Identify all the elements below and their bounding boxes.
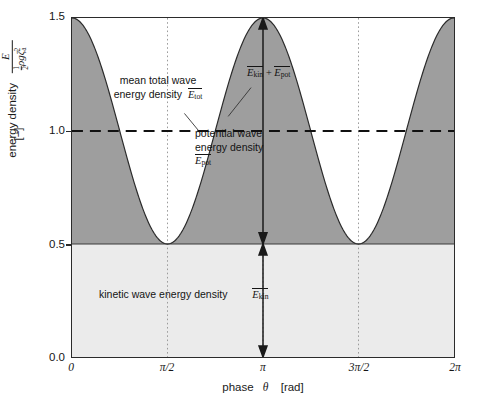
mean-total-symbol: Etot — [188, 88, 202, 101]
mean-total-line2: energy density — [114, 88, 182, 100]
y-axis-label: energy density E 1 2 ρgζa2 — [0, 4, 28, 194]
y-axis-label-text: energy density — [6, 83, 18, 158]
y-formula-exponent: 2 — [12, 48, 21, 52]
y-axis-unit: [−] — [12, 124, 36, 144]
y-formula-numerator: E — [0, 41, 11, 73]
potential-line2: energy density — [195, 141, 263, 153]
annotation-potential: potential wave energy density Epot — [195, 127, 263, 168]
annotation-kinetic: kinetic wave energy density Ekin — [99, 288, 268, 302]
ytick-mark-1.0 — [66, 131, 71, 132]
kinetic-symbol: Ekin — [252, 288, 268, 301]
x-axis-label-symbol: θ — [263, 381, 269, 393]
wave-energy-density-figure: mean total wave energy density Etot Ekin… — [0, 0, 481, 404]
total-plus-sign: + — [265, 67, 272, 78]
y-formula-rho-g-zeta: ρgζ — [13, 51, 25, 66]
y-axis-formula: E 1 2 ρgζa2 — [0, 41, 29, 73]
ytick-label-1.5: 1.5 — [31, 11, 65, 23]
total-symbol-kin: Ekin — [247, 66, 263, 79]
annotation-mean-total: mean total wave energy density Etot — [94, 74, 222, 101]
xtick-label-0: 0 — [41, 362, 101, 374]
x-axis-label: phase θ [rad] — [71, 381, 455, 393]
plot-area: mean total wave energy density Etot Ekin… — [71, 17, 455, 358]
xtick-label-pi: π — [233, 362, 293, 374]
mean-total-line1: mean total wave — [120, 74, 196, 86]
ytick-label-0.5: 0.5 — [31, 239, 65, 251]
xtick-label-2pi: 2π — [425, 362, 481, 374]
x-axis-label-unit: [rad] — [281, 381, 304, 393]
annotation-total-curve: Ekin+Epot — [247, 66, 290, 80]
xtick-label-3pi-2: 3π/2 — [329, 362, 389, 374]
x-axis-label-text: phase — [222, 381, 253, 393]
potential-line1: potential wave — [195, 127, 262, 139]
xtick-label-pi-2: π/2 — [137, 362, 197, 374]
y-formula-denominator: 1 2 ρgζa2 — [11, 41, 29, 73]
kinetic-line1: kinetic wave energy density — [99, 288, 227, 300]
ytick-label-1.0: 1.0 — [31, 125, 65, 137]
total-symbol-pot: Epot — [274, 66, 290, 79]
ytick-mark-0.5 — [66, 244, 71, 245]
y-formula-half: 1 2 — [12, 66, 29, 70]
potential-symbol: Epot — [195, 154, 211, 167]
